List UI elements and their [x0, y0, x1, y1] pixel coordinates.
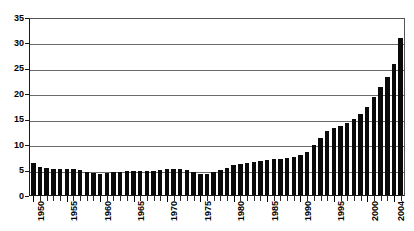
x-axis-tick-label: 1990 [304, 201, 313, 221]
bar [185, 170, 189, 195]
bar-chart: 05101520253035 1950195519601965197019751… [0, 0, 414, 231]
bar [378, 87, 382, 195]
x-axis-tick-label: 1995 [337, 201, 346, 221]
bar [278, 159, 282, 195]
bar [158, 170, 162, 195]
x-axis-tick-label: 1975 [204, 201, 213, 221]
bar [85, 172, 89, 195]
bar [265, 160, 269, 195]
y-axis-tick-label: 35 [0, 14, 24, 23]
bar [285, 158, 289, 195]
bar [332, 128, 336, 195]
y-axis-tick-label: 5 [0, 166, 24, 175]
bar [165, 169, 169, 195]
x-axis-tick-label: 1950 [37, 201, 46, 221]
bar [398, 38, 402, 195]
bar [171, 169, 175, 195]
bar [111, 172, 115, 195]
bar [51, 169, 55, 195]
y-axis-tick-label: 10 [0, 141, 24, 150]
bar [78, 170, 82, 195]
x-axis-tick-label: 2000 [371, 201, 380, 221]
bar [318, 138, 322, 195]
y-axis-tick-label: 30 [0, 39, 24, 48]
bar [151, 171, 155, 195]
bar [98, 174, 102, 195]
bar-series [30, 18, 404, 195]
bar [44, 168, 48, 195]
bar [65, 169, 69, 195]
bar [38, 167, 42, 195]
bar [178, 169, 182, 195]
x-axis-tick-label: 2004 [397, 201, 406, 221]
x-axis-tick-label: 1985 [271, 201, 280, 221]
bar [298, 155, 302, 195]
bar [352, 119, 356, 195]
bar [245, 163, 249, 195]
y-axis-tick-mark [25, 196, 29, 197]
y-axis-tick-label: 25 [0, 64, 24, 73]
bar [211, 172, 215, 195]
y-axis-tick-label: 0 [0, 192, 24, 201]
bar [31, 163, 35, 195]
bar [125, 171, 129, 195]
bar [272, 159, 276, 195]
bar [205, 174, 209, 195]
bar [58, 169, 62, 195]
bar [138, 171, 142, 195]
bar [145, 171, 149, 195]
x-axis-tick-label: 1970 [170, 201, 179, 221]
bar [105, 173, 109, 195]
bar [338, 126, 342, 195]
x-axis-tick-label: 1980 [237, 201, 246, 221]
bar [325, 131, 329, 195]
bar [198, 174, 202, 195]
bar [118, 172, 122, 195]
bar [392, 64, 396, 195]
bar [191, 172, 195, 195]
bar [292, 157, 296, 195]
bar [131, 171, 135, 195]
bar [218, 170, 222, 195]
bar [238, 164, 242, 195]
bar [385, 77, 389, 195]
x-axis-tick-label: 1960 [104, 201, 113, 221]
x-axis-tick-label: 1965 [137, 201, 146, 221]
y-axis-tick-label: 15 [0, 115, 24, 124]
bar [358, 114, 362, 195]
bar [345, 123, 349, 195]
bar [365, 107, 369, 195]
bar [258, 161, 262, 195]
bar [312, 145, 316, 195]
bar [372, 97, 376, 195]
x-axis-labels: 1950195519601965197019751980198519901995… [30, 201, 404, 231]
bar [71, 169, 75, 195]
bar [252, 162, 256, 195]
bar [305, 152, 309, 195]
bar [91, 173, 95, 195]
y-axis-tick-label: 20 [0, 90, 24, 99]
bar [231, 165, 235, 195]
x-axis-tick-label: 1955 [70, 201, 79, 221]
bar [225, 168, 229, 195]
